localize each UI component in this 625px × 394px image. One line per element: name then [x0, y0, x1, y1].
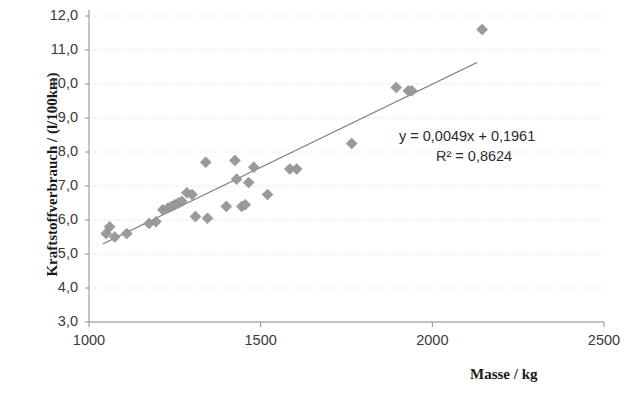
data-point: [231, 174, 242, 185]
axis-lines: [89, 10, 604, 322]
data-points: [101, 24, 488, 242]
data-point: [202, 213, 213, 224]
data-point: [248, 162, 259, 173]
data-point: [262, 189, 273, 200]
axis-ticks: [85, 16, 604, 327]
trendline: [103, 62, 477, 244]
data-point: [477, 24, 488, 35]
data-point: [221, 201, 232, 212]
data-point: [346, 138, 357, 149]
data-point: [291, 164, 302, 175]
gridlines: [89, 16, 604, 322]
data-point: [121, 228, 132, 239]
data-point: [229, 155, 240, 166]
data-point: [200, 157, 211, 168]
data-point: [243, 177, 254, 188]
